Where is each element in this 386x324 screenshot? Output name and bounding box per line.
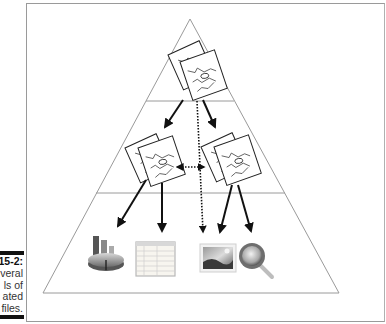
spreadsheet-file-icon (136, 242, 175, 276)
arrow-top-to-left (165, 100, 183, 127)
chart-file-icon (88, 236, 124, 271)
pyramid-diagram (0, 0, 386, 324)
arrow-top-to-right (203, 100, 215, 127)
image-file-icon (200, 244, 236, 272)
arrow-right-to-image (220, 185, 232, 232)
arrow-right-to-search (238, 185, 251, 231)
search-file-icon (239, 243, 272, 277)
arrow-left-to-chart (118, 180, 146, 226)
